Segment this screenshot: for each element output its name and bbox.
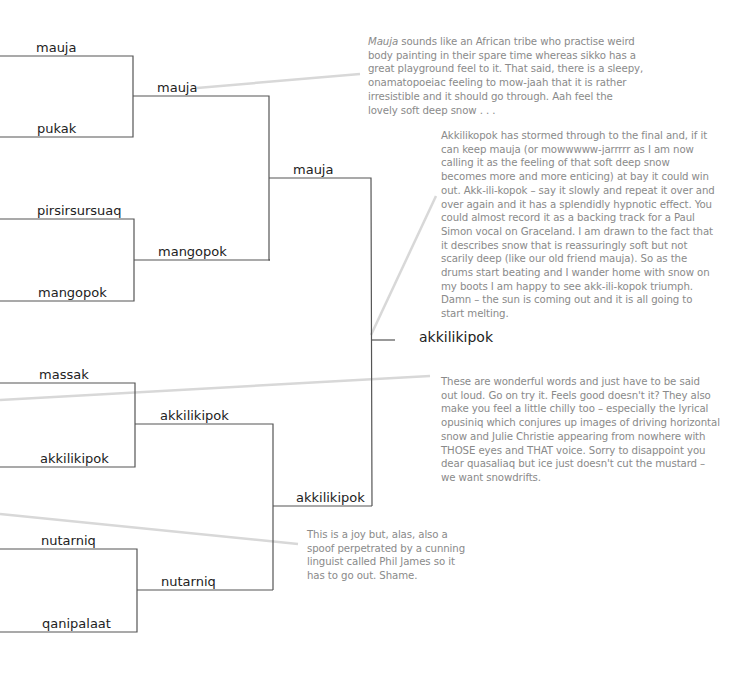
- note-line: out. Akk-ili-kopok – say it slowly and r…: [441, 184, 739, 198]
- round2-entry: mauja: [157, 81, 197, 95]
- note-line: it describes snow that is reassuringly s…: [441, 239, 739, 253]
- note-line: Damn – the sun is coming out and it is a…: [441, 293, 739, 307]
- note-spoof: This is a joy but, alas, also a spoof pe…: [307, 528, 487, 583]
- note-akkilikipok: Akkilikopok has stormed through to the f…: [441, 129, 739, 321]
- callout-lines: [0, 74, 436, 544]
- note-line: my boots I am happy to see akk-ili-kopok…: [441, 280, 739, 294]
- note-line: over again and it has a splendidly hypno…: [441, 198, 739, 212]
- note-line: irresistible and it should go through. A…: [368, 90, 668, 104]
- note-mauja: Mauja sounds like an African tribe who p…: [368, 35, 668, 117]
- round2-entry: nutarniq: [161, 575, 216, 589]
- note-line: calling it as the feeling of that soft d…: [441, 156, 739, 170]
- note-line: onamatopoeiac feeling to mow-jaah that i…: [368, 76, 668, 90]
- round2-entry: mangopok: [158, 245, 227, 259]
- note-line: lovely soft deep snow . . .: [368, 104, 668, 118]
- note-line: can keep mauja (or mowwwww-jarrrrr as I …: [441, 143, 739, 157]
- round1-entry: qanipalaat: [42, 617, 111, 631]
- note-line: Akkilikopok has stormed through to the f…: [441, 129, 739, 143]
- note-line: out loud. Go on try it. Feels good doesn…: [441, 389, 739, 403]
- winner-label: akkilikipok: [419, 330, 493, 344]
- note-line: spoof perpetrated by a cunning: [307, 542, 487, 556]
- note-line: sounds like an African tribe who practis…: [398, 36, 635, 47]
- note-line: start melting.: [441, 307, 739, 321]
- note-line: has to go out. Shame.: [307, 569, 487, 583]
- note-line: linguist called Phil James so it: [307, 555, 487, 569]
- note-line: opusiniq which conjures up images of dri…: [441, 416, 739, 430]
- round1-entry: mauja: [36, 41, 76, 55]
- note-line: we want snowdrifts.: [441, 471, 739, 485]
- note-line: THOSE eyes and THAT voice. Sorry to disa…: [441, 444, 739, 458]
- note-line: body painting in their spare time wherea…: [368, 49, 668, 63]
- round1-entry: mangopok: [38, 286, 107, 300]
- note-line: Simon vocal on Graceland. I am drawn to …: [441, 225, 739, 239]
- note-line: great playground feel to it. That said, …: [368, 62, 668, 76]
- round2-entry: akkilikipok: [160, 409, 229, 423]
- round1-entry: pirsirsursuaq: [37, 204, 122, 218]
- round1-entry: akkilikipok: [40, 452, 109, 466]
- semifinal-entry: mauja: [293, 163, 333, 177]
- note-line: scarily deep (like our old friend mauja)…: [441, 252, 739, 266]
- note-line: becomes more and more enticing) at bay i…: [441, 170, 739, 184]
- round1-entry: pukak: [37, 122, 76, 136]
- note-line: These are wonderful words and just have …: [441, 375, 739, 389]
- round1-entry: nutarniq: [41, 534, 96, 548]
- note-emphasis: Mauja: [368, 36, 398, 47]
- note-line: could almost record it as a backing trac…: [441, 211, 739, 225]
- note-wonderful-words: These are wonderful words and just have …: [441, 375, 739, 485]
- note-line: dear quasaliaq but ice just doesn't cut …: [441, 457, 739, 471]
- note-line: drums start beating and I wander home wi…: [441, 266, 739, 280]
- note-line: make you feel a little chilly too – espe…: [441, 402, 739, 416]
- round1-entry: massak: [39, 368, 89, 382]
- note-line: This is a joy but, alas, also a: [307, 528, 487, 542]
- semifinal-entry: akkilikipok: [296, 491, 365, 505]
- note-line: snow and Julie Christie appearing from n…: [441, 430, 739, 444]
